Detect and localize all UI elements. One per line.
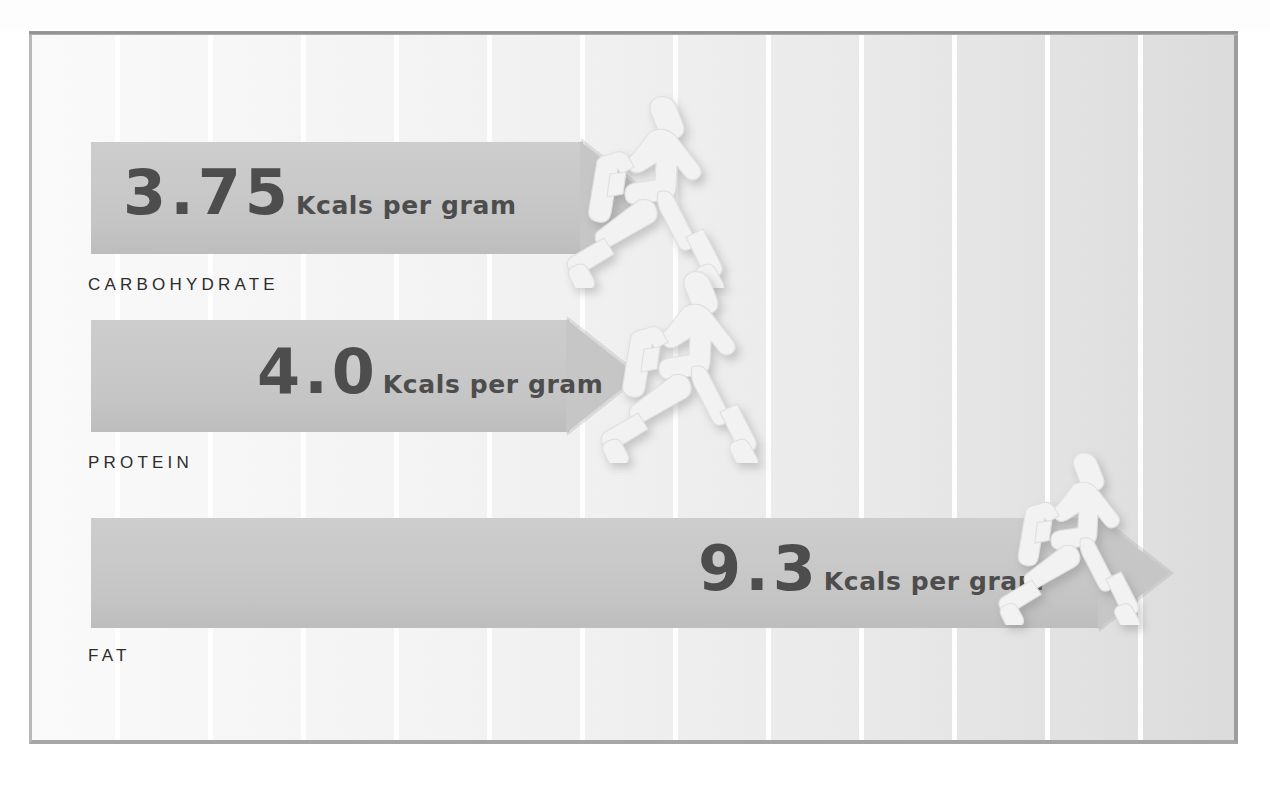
top-margin-band (0, 0, 1270, 31)
value-number: 9.3 (698, 538, 820, 600)
value-line-protein: 4.0 Kcals per gram (257, 341, 604, 403)
caption-carbohydrate: CARBOHYDRATE (88, 275, 279, 295)
runner-figure-protein (588, 263, 788, 463)
value-unit: Kcals per gram (296, 193, 517, 218)
caption-fat: FAT (88, 646, 131, 666)
page-root: 3.75 Kcals per gram CARBOHYDRATE 4.0 Kca… (0, 0, 1270, 803)
value-unit: Kcals per gram (383, 372, 604, 397)
runner-figure-carbohydrate (554, 88, 754, 288)
value-number: 4.0 (257, 341, 379, 403)
caption-protein: PROTEIN (88, 453, 193, 473)
value-number: 3.75 (123, 162, 292, 224)
value-line-carbohydrate: 3.75 Kcals per gram (123, 162, 517, 224)
data-row-protein: 4.0 Kcals per gram (91, 320, 636, 432)
runner-figure-fat (987, 445, 1167, 625)
figure-frame: 3.75 Kcals per gram CARBOHYDRATE 4.0 Kca… (29, 35, 1238, 744)
